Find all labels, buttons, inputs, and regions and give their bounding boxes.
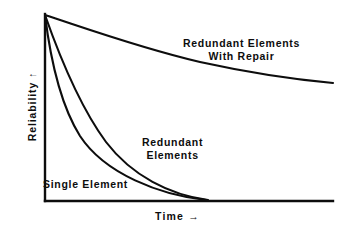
annotation-line-1: Redundant <box>142 136 203 148</box>
y-axis-label-text: Reliability <box>26 82 38 142</box>
reliability-curves-figure: Redundant Elements With Repair Redundant… <box>0 0 348 235</box>
up-arrow-icon: ↑ <box>26 72 39 78</box>
right-arrow-icon: → <box>188 210 200 223</box>
curve-single-element <box>45 15 206 200</box>
annotation-redundant-elements: Redundant Elements <box>142 136 203 162</box>
annotation-line-2: With Repair <box>183 50 300 63</box>
annotation-single-element: Single Element <box>43 178 128 191</box>
annotation-line-1: Single Element <box>43 178 128 190</box>
annotation-line-1: Redundant Elements <box>183 37 300 49</box>
x-axis-label-text: Time <box>155 210 184 222</box>
x-axis-label: Time→ <box>155 210 200 223</box>
annotation-line-2: Elements <box>142 149 203 162</box>
y-axis-label: Reliability↑ <box>26 71 39 143</box>
annotation-redundant-elements-with-repair: Redundant Elements With Repair <box>183 37 300 63</box>
plot-area <box>0 0 348 235</box>
